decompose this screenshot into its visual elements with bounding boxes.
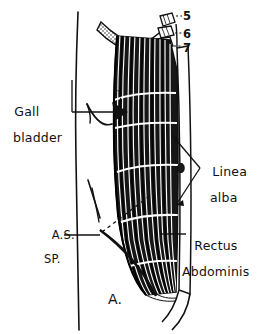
label-rectus-abdominis-line2: Abdominis — [182, 265, 249, 278]
label-rectus-abdominis-line1: Rectus — [194, 238, 237, 253]
leader-gall-bladder — [72, 80, 116, 112]
label-gall-bladder-line1: Gall — [14, 104, 39, 119]
label-asis-line2: SP. — [44, 253, 75, 265]
label-rib-6: 6 — [183, 28, 191, 40]
label-linea-alba-line1: Linea — [212, 164, 247, 179]
umbilicus — [178, 163, 184, 172]
label-rib-7: 7 — [183, 42, 191, 54]
label-asis-line1: A.S. — [52, 228, 75, 242]
label-linea-alba: Linea alba — [204, 152, 247, 218]
label-gall-bladder-line2: bladder — [13, 131, 62, 144]
label-rib-5: 5 — [183, 10, 191, 22]
figure-caption: A. — [108, 292, 122, 307]
label-anterior-superior-iliac-spine: A.S. SP. — [44, 217, 75, 277]
label-rectus-abdominis: Rectus Abdominis — [186, 226, 249, 292]
label-linea-alba-line2: alba — [210, 191, 247, 204]
label-gall-bladder: Gall bladder — [6, 92, 62, 158]
rectus-abdominis-muscle — [114, 34, 178, 301]
torso-outline — [76, 12, 112, 330]
leader-ribs — [174, 16, 182, 46]
